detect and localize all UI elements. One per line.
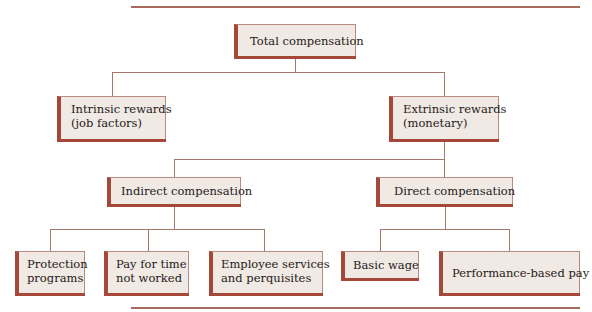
node-label: and perquisites xyxy=(221,271,314,285)
node-label: not worked xyxy=(116,271,180,285)
top-rule xyxy=(131,6,580,8)
node-label: Performance-based pay xyxy=(452,266,589,280)
node-performance-based-pay: Performance-based pay xyxy=(439,251,580,293)
node-label: Basic wage xyxy=(353,258,419,272)
node-indirect-compensation: Indirect compensation xyxy=(107,177,241,204)
node-label: programs xyxy=(27,271,76,285)
connector xyxy=(112,72,113,96)
node-label: Intrinsic rewards xyxy=(71,102,157,116)
node-label: Extrinsic rewards xyxy=(403,102,490,116)
connector xyxy=(174,159,445,160)
connector xyxy=(445,206,446,229)
node-label: Employee services xyxy=(221,257,314,271)
node-intrinsic-rewards: Intrinsic rewards (job factors) xyxy=(57,96,166,139)
node-extrinsic-rewards: Extrinsic rewards (monetary) xyxy=(389,96,499,139)
node-pay-for-time-not-worked: Pay for time not worked xyxy=(104,251,189,293)
node-label: Pay for time xyxy=(116,257,180,271)
node-label: Protection xyxy=(27,257,76,271)
connector xyxy=(264,229,265,251)
connector xyxy=(444,72,445,96)
node-employee-services: Employee services and perquisites xyxy=(209,251,323,293)
node-label: (job factors) xyxy=(71,116,157,130)
connector xyxy=(295,57,296,72)
connector xyxy=(174,206,175,229)
connector xyxy=(444,142,445,178)
node-total-compensation: Total compensation xyxy=(234,24,356,56)
connector xyxy=(380,229,510,230)
bottom-rule xyxy=(131,307,580,309)
node-label: Indirect compensation xyxy=(121,184,252,198)
connector xyxy=(509,229,510,251)
connector xyxy=(380,229,381,251)
connector xyxy=(50,229,265,230)
connector xyxy=(50,229,51,251)
connector xyxy=(148,229,149,251)
node-basic-wage: Basic wage xyxy=(341,251,419,278)
connector xyxy=(174,159,175,178)
node-label: Total compensation xyxy=(250,34,364,48)
node-protection-programs: Protection programs xyxy=(15,251,85,293)
node-label: Direct compensation xyxy=(394,184,515,198)
node-direct-compensation: Direct compensation xyxy=(376,177,513,204)
node-label: (monetary) xyxy=(403,116,490,130)
connector xyxy=(112,72,445,73)
